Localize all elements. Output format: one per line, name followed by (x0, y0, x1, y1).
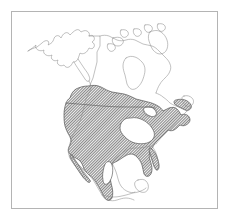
range-layer (64, 85, 191, 200)
outline-canada-west (89, 36, 100, 85)
range-main-polygon (64, 85, 190, 200)
outline-arctic-island-small-e (107, 44, 115, 52)
outline-alaska (28, 30, 94, 68)
distribution-map-figure (0, 0, 234, 223)
outline-arctic-island-small-d (157, 24, 165, 32)
outline-mexico-east-coast (112, 163, 146, 193)
outline-hudson-bay (123, 56, 145, 89)
outline-arctic-island-small-a (133, 29, 141, 37)
outline-arctic-island-baffin (148, 31, 167, 55)
outline-alaska-panhandle (74, 59, 90, 81)
outline-arctic-island-small-c (120, 30, 128, 38)
map-canvas (0, 0, 234, 223)
outline-canada-north-coast (100, 35, 171, 93)
outline-arctic-island-small-b (144, 25, 152, 33)
